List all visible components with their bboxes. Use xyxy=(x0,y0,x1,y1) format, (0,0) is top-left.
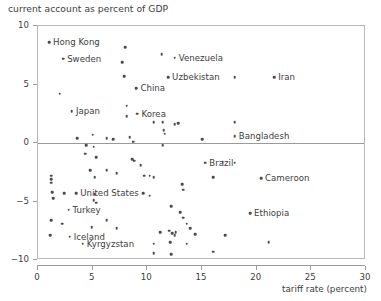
data-point xyxy=(129,136,132,139)
x-tick-label: 25 xyxy=(305,272,316,282)
data-point xyxy=(62,57,65,60)
data-point xyxy=(125,115,128,118)
data-point xyxy=(106,137,109,140)
data-point xyxy=(170,205,173,208)
data-point xyxy=(153,121,156,124)
x-tick-mark xyxy=(310,266,311,270)
x-tick-mark xyxy=(256,266,257,270)
data-point xyxy=(148,174,151,177)
data-point-label: Iran xyxy=(278,72,295,82)
data-point xyxy=(85,144,88,147)
data-point xyxy=(75,192,78,195)
x-tick-mark xyxy=(365,266,366,270)
y-tick-label: 10 xyxy=(18,20,29,30)
data-point xyxy=(224,234,227,237)
data-point xyxy=(67,208,70,211)
data-point xyxy=(170,253,173,256)
data-point xyxy=(260,177,263,180)
data-point xyxy=(124,46,127,49)
data-point xyxy=(249,212,252,215)
data-point xyxy=(179,211,182,214)
data-point xyxy=(95,156,98,159)
data-point xyxy=(59,93,62,96)
data-point xyxy=(142,192,145,195)
data-point xyxy=(177,122,180,125)
plot-area: Hong KongSwedenVenezuelaUzbekistanIranCh… xyxy=(37,25,365,259)
y-tick-label: −10 xyxy=(11,254,29,264)
data-point xyxy=(201,138,204,141)
data-point xyxy=(153,176,156,179)
data-point xyxy=(234,76,237,79)
data-point xyxy=(76,137,79,140)
data-point xyxy=(162,129,165,132)
data-point xyxy=(267,241,270,244)
data-point-label: Uzbekistan xyxy=(172,72,220,82)
data-point xyxy=(148,194,151,197)
data-point xyxy=(112,138,115,141)
y-tick-mark xyxy=(33,84,37,85)
data-point xyxy=(136,112,139,115)
data-point xyxy=(84,152,87,155)
data-point xyxy=(106,169,109,172)
x-tick-mark xyxy=(201,266,202,270)
data-point xyxy=(173,56,176,59)
data-point xyxy=(234,121,237,124)
data-point xyxy=(164,132,167,135)
data-point-label: Brazil xyxy=(209,158,233,168)
data-point xyxy=(82,242,85,245)
data-point xyxy=(181,183,184,186)
data-point-label: United States xyxy=(80,188,138,198)
data-point xyxy=(139,164,142,167)
data-point xyxy=(52,197,55,200)
data-point xyxy=(161,121,164,124)
data-point xyxy=(173,123,176,126)
data-point xyxy=(92,145,95,148)
data-point-label: Turkey xyxy=(73,205,101,215)
x-tick-label: 10 xyxy=(141,272,152,282)
x-axis-title: tariff rate (percent) xyxy=(282,284,367,294)
data-point xyxy=(169,241,172,244)
data-point xyxy=(153,242,156,245)
data-point xyxy=(50,181,53,184)
data-point xyxy=(89,169,92,172)
x-tick-label: 20 xyxy=(250,272,261,282)
x-tick-label: 0 xyxy=(34,272,39,282)
data-point xyxy=(174,231,177,234)
x-tick-label: 5 xyxy=(89,272,94,282)
data-point xyxy=(212,176,215,179)
data-point-label: China xyxy=(140,83,165,93)
data-point xyxy=(132,141,135,144)
data-point xyxy=(115,172,118,175)
data-point xyxy=(106,219,109,222)
data-point xyxy=(185,222,188,225)
data-point-label: Cameroon xyxy=(265,173,309,183)
data-point xyxy=(194,233,197,236)
data-point xyxy=(234,162,237,165)
data-point xyxy=(121,61,124,64)
data-point-label: Korea xyxy=(141,109,165,119)
data-point xyxy=(182,189,185,192)
data-point xyxy=(95,201,98,204)
y-tick-mark xyxy=(33,259,37,260)
data-point-label: Venezuela xyxy=(179,53,223,63)
data-point-label: Ethiopia xyxy=(254,208,289,218)
data-point xyxy=(61,222,64,225)
data-point xyxy=(160,53,163,56)
data-point-label: Bangladesh xyxy=(239,131,290,141)
y-tick-mark xyxy=(33,201,37,202)
data-point-label: Japan xyxy=(76,106,100,116)
data-point xyxy=(50,219,53,222)
data-point xyxy=(161,144,164,147)
chart-title: current account as percent of GDP xyxy=(8,3,168,14)
x-tick-mark xyxy=(146,266,147,270)
x-tick-label: 15 xyxy=(196,272,207,282)
data-point xyxy=(273,76,276,79)
data-point xyxy=(68,235,71,238)
data-point xyxy=(212,251,215,254)
data-point xyxy=(51,191,54,194)
data-point xyxy=(94,176,97,179)
data-point xyxy=(49,234,52,237)
data-point xyxy=(133,159,136,162)
data-point xyxy=(125,104,128,107)
data-point xyxy=(168,229,171,232)
